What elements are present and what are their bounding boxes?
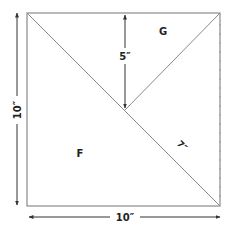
diagram-canvas: G F 5″ 7″ 10″ 10″ [0, 0, 240, 227]
left-height-label: 10″ [12, 100, 23, 119]
region-f-label: F [77, 148, 84, 159]
triangle-g-edge [125, 13, 220, 110]
region-g-label: G [159, 26, 167, 37]
g-height-label: 5″ [119, 51, 131, 62]
diagonal-partial-label: 7″ [175, 139, 189, 153]
bottom-width-label: 10″ [116, 212, 135, 223]
diagram-svg: G F 5″ 7″ 10″ 10″ [0, 0, 240, 227]
